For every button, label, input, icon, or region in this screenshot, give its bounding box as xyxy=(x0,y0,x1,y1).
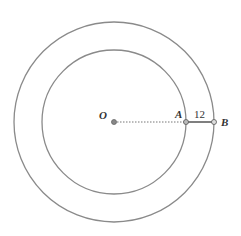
label-O: O xyxy=(99,109,107,121)
point-O xyxy=(112,120,117,125)
point-A xyxy=(184,120,189,125)
label-B: B xyxy=(220,116,228,128)
concentric-circles-diagram: O A 12 B xyxy=(0,0,241,236)
label-A: A xyxy=(174,108,182,120)
point-B xyxy=(212,120,217,125)
label-AB-length: 12 xyxy=(194,108,205,120)
